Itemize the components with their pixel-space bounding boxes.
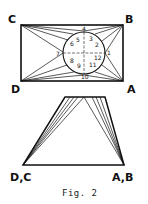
- point-label-9: 9: [77, 62, 81, 69]
- bottom-diagram: [23, 97, 124, 165]
- figure-caption: Fig. 2: [62, 188, 98, 198]
- point-label-8: 8: [70, 57, 74, 64]
- corner-label-a: A: [127, 83, 136, 96]
- corner-label-c: C: [8, 13, 16, 26]
- point-label-3: 3: [89, 35, 93, 42]
- point-label-4: 4: [82, 25, 86, 32]
- bottom-fan-lines: [23, 97, 124, 165]
- point-label-10: 10: [81, 73, 89, 80]
- bottom-label-dc: D,C: [10, 171, 31, 184]
- point-label-7: 7: [56, 50, 60, 57]
- point-label-12: 12: [94, 54, 102, 61]
- bottom-label-ab: A,B: [112, 171, 133, 184]
- point-label-11: 11: [89, 61, 97, 68]
- point-label-6: 6: [70, 40, 74, 47]
- trapezoid: [23, 97, 124, 165]
- corner-label-d: D: [11, 83, 20, 96]
- point-label-5: 5: [76, 36, 80, 43]
- point-label-1: 1: [107, 49, 111, 56]
- point-label-2: 2: [95, 41, 99, 48]
- corner-label-b: B: [125, 13, 133, 26]
- figure-canvas: C B D A 1 2 3 4 5 6 7 8 9 10 11 12 D,C A…: [0, 0, 148, 204]
